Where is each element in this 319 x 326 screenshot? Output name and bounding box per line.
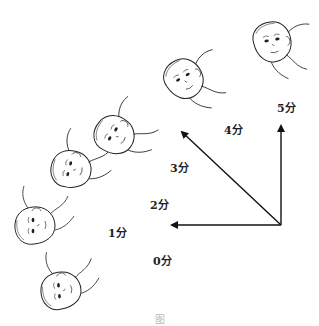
- infant-position-0: [38, 248, 102, 311]
- label-1-minute: 1分: [108, 224, 127, 240]
- label-5-minutes: 5分: [277, 99, 296, 115]
- infant-position-4: [158, 42, 238, 122]
- infant-position-1: [15, 186, 74, 244]
- label-4-minutes: 4分: [224, 121, 243, 137]
- infant-position-3: [87, 91, 169, 173]
- label-3-minutes: 3分: [170, 159, 189, 175]
- label-2-minutes: 2分: [150, 196, 169, 212]
- arrows: [172, 126, 281, 225]
- figure-caption: 图: [0, 311, 319, 326]
- infant-position-5: [250, 15, 318, 83]
- label-0-minutes: 0分: [153, 252, 172, 268]
